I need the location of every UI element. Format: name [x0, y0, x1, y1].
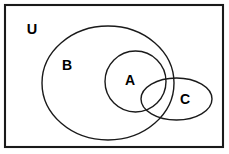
set-a-label: A [125, 72, 135, 88]
universe-label: U [27, 21, 37, 37]
set-b-label: B [62, 57, 72, 73]
venn-diagram-svg: U B A C [0, 0, 229, 154]
set-c-label: C [180, 91, 190, 107]
venn-diagram-canvas: U B A C [0, 0, 229, 154]
